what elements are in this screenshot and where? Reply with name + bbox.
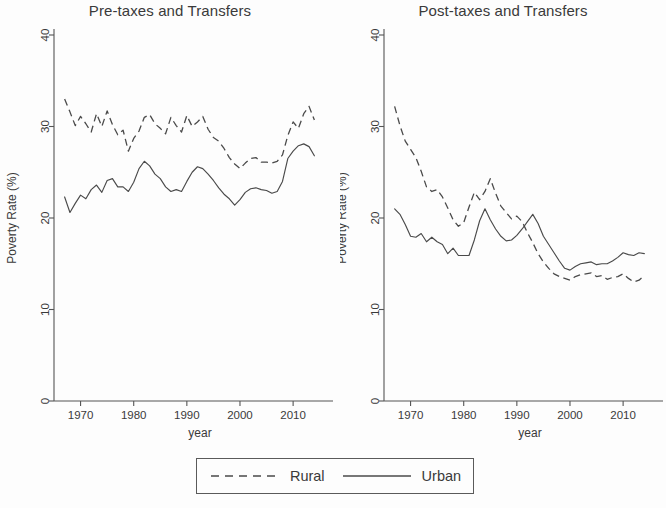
svg-text:1990: 1990 bbox=[504, 409, 530, 421]
legend-entry-urban: Urban bbox=[341, 468, 462, 484]
svg-text:Poverty Rate (%): Poverty Rate (%) bbox=[340, 172, 349, 263]
svg-text:10: 10 bbox=[39, 303, 51, 316]
panel-pre-taxes: Pre-taxes and Transfers 0102030401970198… bbox=[0, 0, 340, 448]
legend-entry-rural: Rural bbox=[209, 468, 325, 484]
svg-text:2010: 2010 bbox=[610, 409, 636, 421]
svg-text:1990: 1990 bbox=[174, 409, 200, 421]
svg-text:0: 0 bbox=[39, 398, 51, 404]
svg-text:Poverty Rate (%): Poverty Rate (%) bbox=[5, 172, 19, 263]
svg-text:2010: 2010 bbox=[280, 409, 306, 421]
svg-text:1970: 1970 bbox=[398, 409, 424, 421]
svg-text:2000: 2000 bbox=[557, 409, 583, 421]
plot-area-pre-taxes: 01020304019701980199020002010yearPoverty… bbox=[0, 0, 340, 448]
legend-box: Rural Urban bbox=[196, 458, 474, 494]
svg-text:10: 10 bbox=[369, 303, 381, 316]
legend-label-rural: Rural bbox=[290, 468, 325, 484]
svg-text:1980: 1980 bbox=[121, 409, 147, 421]
svg-text:30: 30 bbox=[39, 120, 51, 133]
svg-text:year: year bbox=[188, 426, 211, 440]
legend-key-rural bbox=[209, 470, 281, 482]
svg-text:20: 20 bbox=[369, 212, 381, 225]
legend-key-urban bbox=[341, 470, 413, 482]
svg-text:30: 30 bbox=[369, 120, 381, 133]
svg-text:20: 20 bbox=[39, 212, 51, 225]
svg-text:2000: 2000 bbox=[227, 409, 253, 421]
svg-text:0: 0 bbox=[369, 398, 381, 404]
svg-text:40: 40 bbox=[39, 29, 51, 42]
series-line-urban bbox=[65, 144, 315, 213]
svg-text:year: year bbox=[518, 426, 541, 440]
legend-label-urban: Urban bbox=[422, 468, 462, 484]
panel-post-taxes: Post-taxes and Transfers 010203040197019… bbox=[340, 0, 666, 448]
plot-area-post-taxes: 01020304019701980199020002010yearPoverty… bbox=[340, 0, 666, 448]
series-line-rural bbox=[65, 99, 315, 169]
svg-text:40: 40 bbox=[369, 29, 381, 42]
svg-text:1970: 1970 bbox=[68, 409, 94, 421]
figure-root: Pre-taxes and Transfers 0102030401970198… bbox=[0, 0, 666, 508]
svg-text:1980: 1980 bbox=[451, 409, 477, 421]
series-line-rural bbox=[395, 106, 645, 282]
